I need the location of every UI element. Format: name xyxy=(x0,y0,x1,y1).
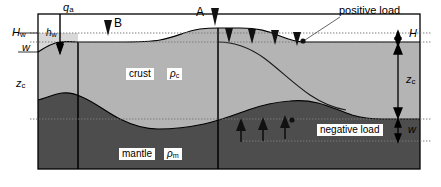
label-w-left: w xyxy=(22,42,30,53)
label-rho-c: ρc xyxy=(167,68,182,80)
figure-canvas: qa Hw hw w zc B A crust ρc mantle ρm pos… xyxy=(0,0,441,187)
label-zc-right: zc xyxy=(406,74,415,86)
label-marker-b: B xyxy=(114,17,122,29)
label-zc-left: zc xyxy=(16,78,25,90)
positive-load-dot xyxy=(300,38,305,43)
negative-load-dot xyxy=(289,117,294,122)
positive-load-leader xyxy=(305,17,340,40)
label-negative-load: negative load xyxy=(317,124,383,136)
label-mantle: mantle xyxy=(119,148,155,160)
cross-section-diagram xyxy=(0,0,441,187)
marker-b-arrow xyxy=(104,20,112,36)
label-qa: qa xyxy=(63,2,74,14)
label-marker-a: A xyxy=(196,6,204,18)
marker-a-arrow xyxy=(211,8,219,26)
label-hw: hw xyxy=(46,28,57,38)
label-w-right: w xyxy=(408,124,416,135)
label-crust: crust xyxy=(126,68,154,80)
label-H-right: H xyxy=(409,28,417,39)
label-positive-load: positive load xyxy=(339,5,400,16)
label-Hw: Hw xyxy=(12,27,26,39)
label-rho-m: ρm xyxy=(164,148,182,160)
